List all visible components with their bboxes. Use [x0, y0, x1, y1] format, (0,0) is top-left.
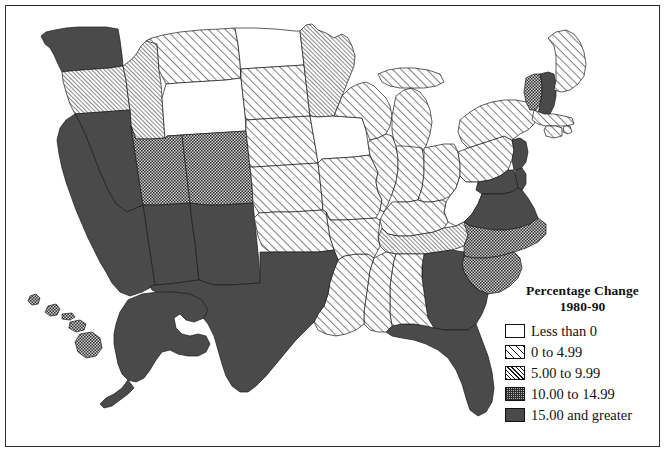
state-south-dakota — [241, 65, 310, 120]
state-colorado — [182, 131, 253, 205]
state-alaska — [114, 292, 210, 382]
state-michigan-up — [378, 68, 444, 88]
state-oklahoma — [254, 210, 334, 252]
legend-label-0-to-4-99: 0 to 4.99 — [531, 344, 582, 360]
state-connecticut — [544, 126, 562, 138]
legend-swatch-check-icon — [505, 387, 525, 401]
state-hawaii-oahu — [45, 304, 60, 316]
state-hawaii-kauai — [28, 294, 40, 305]
state-new-mexico — [190, 203, 260, 285]
legend-items: Less than 0 0 to 4.99 5.00 to 9.99 10.00… — [505, 321, 660, 425]
legend-item-15-and-greater: 15.00 and greater — [505, 405, 660, 425]
state-massachusetts — [532, 110, 574, 126]
state-montana — [146, 28, 241, 84]
state-rhode-island — [563, 126, 572, 134]
legend-label-10-to-14-99: 10.00 to 14.99 — [531, 386, 615, 402]
state-wyoming — [162, 78, 246, 138]
legend-item-less-than-0: Less than 0 — [505, 321, 660, 341]
legend-swatch-hatch-sparse-icon — [505, 345, 525, 359]
legend-item-0-to-4-99: 0 to 4.99 — [505, 342, 660, 362]
state-washington — [41, 27, 123, 72]
state-oregon — [62, 66, 130, 114]
state-new-jersey — [512, 138, 528, 170]
legend-item-5-to-9-99: 5.00 to 9.99 — [505, 363, 660, 383]
legend-label-less-than-0: Less than 0 — [531, 323, 597, 339]
legend-label-5-to-9-99: 5.00 to 9.99 — [531, 365, 600, 381]
map-figure: Percentage Change 1980-90 Less than 0 0 … — [0, 0, 667, 454]
legend-swatch-hatch-dense-icon — [505, 366, 525, 380]
state-missouri — [318, 155, 382, 220]
map-legend: Percentage Change 1980-90 Less than 0 0 … — [505, 283, 660, 426]
legend-swatch-solid-icon — [505, 408, 525, 422]
legend-title-line2: 1980-90 — [505, 299, 660, 315]
state-kansas — [250, 163, 323, 213]
legend-title-line1: Percentage Change — [526, 283, 639, 298]
legend-swatch-none-icon — [505, 324, 525, 338]
state-hawaii-molokai — [62, 313, 75, 320]
state-alaska-aleutians — [100, 380, 134, 408]
legend-title: Percentage Change 1980-90 — [505, 283, 660, 315]
state-florida — [386, 324, 494, 416]
state-hawaii-bigisland — [75, 332, 102, 358]
legend-item-10-to-14-99: 10.00 to 14.99 — [505, 384, 660, 404]
state-nebraska — [246, 116, 318, 167]
state-hawaii-maui — [69, 320, 86, 332]
legend-label-15-and-greater: 15.00 and greater — [531, 407, 632, 423]
